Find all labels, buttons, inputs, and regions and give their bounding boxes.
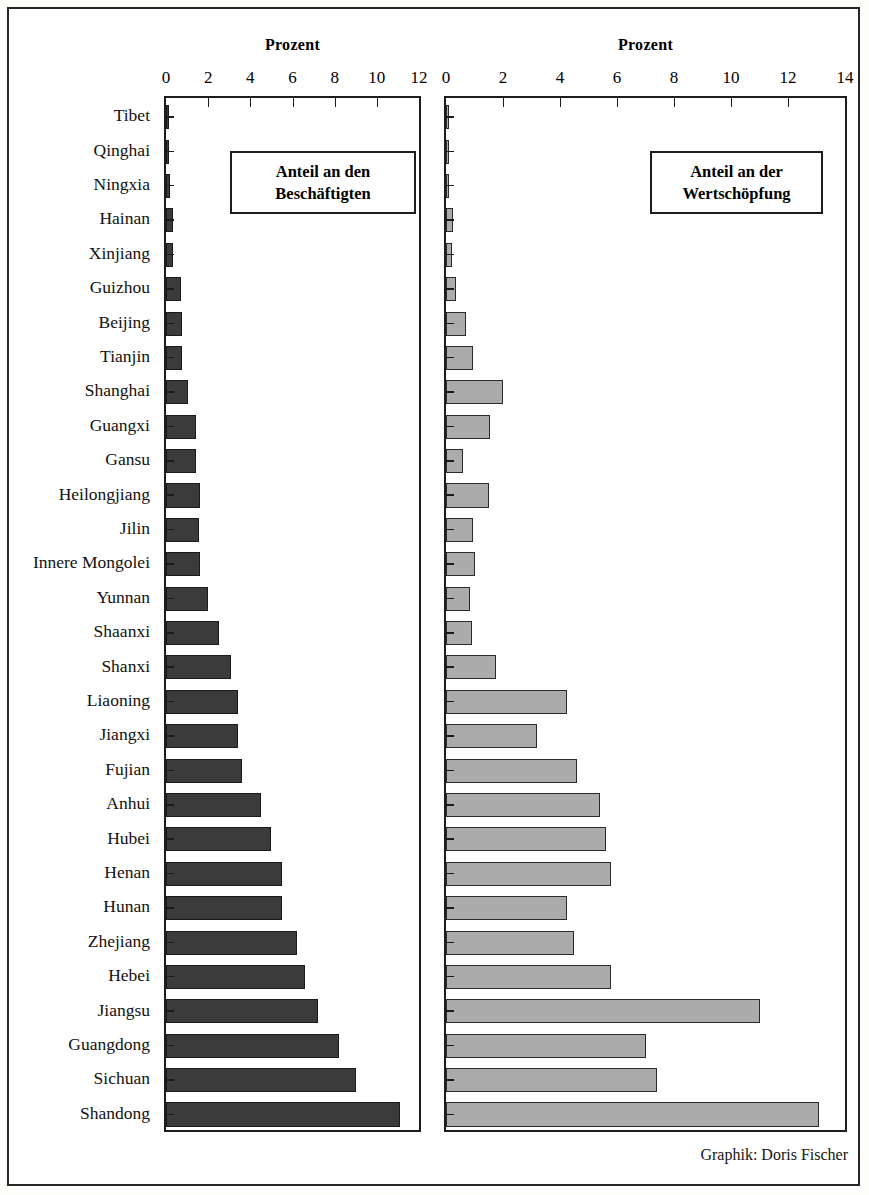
category-label-jilin: Jilin xyxy=(120,518,150,539)
bar-row xyxy=(166,650,419,684)
bar-jiangsu[interactable] xyxy=(166,999,318,1023)
xaxis-ticklabels-right: 02468101214 xyxy=(446,68,845,90)
bar-zhejiang[interactable] xyxy=(446,931,574,955)
category-tickmark xyxy=(446,873,454,875)
bar-row xyxy=(446,753,845,787)
xaxis-tickmark-12 xyxy=(788,98,789,107)
bar-henan[interactable] xyxy=(166,862,282,886)
category-tickmark xyxy=(446,151,454,153)
category-tickmark xyxy=(166,185,174,187)
bar-fujian[interactable] xyxy=(166,759,242,783)
category-tickmark xyxy=(166,1114,174,1116)
bar-row xyxy=(166,1063,419,1097)
category-tickmark xyxy=(166,563,174,565)
bar-row xyxy=(446,822,845,856)
bar-shandong[interactable] xyxy=(166,1102,400,1126)
bar-anhui[interactable] xyxy=(166,793,261,817)
bar-row xyxy=(446,1097,845,1131)
category-tickmark xyxy=(446,770,454,772)
category-tickmark xyxy=(446,288,454,290)
bar-sichuan[interactable] xyxy=(166,1068,356,1092)
bar-liaoning[interactable] xyxy=(166,690,238,714)
bar-row xyxy=(446,994,845,1028)
category-tickmark xyxy=(166,770,174,772)
category-label-hainan: Hainan xyxy=(99,208,150,229)
bar-henan[interactable] xyxy=(446,862,611,886)
axis-title-right: Prozent xyxy=(446,36,845,54)
category-tickmark xyxy=(166,598,174,600)
bar-shanghai[interactable] xyxy=(446,380,503,404)
bar-hebei[interactable] xyxy=(166,965,305,989)
bar-row xyxy=(166,444,419,478)
bar-row xyxy=(166,994,419,1028)
category-tickmark xyxy=(446,391,454,393)
category-tickmark xyxy=(446,735,454,737)
category-tickmark xyxy=(166,460,174,462)
category-tickmark xyxy=(166,666,174,668)
bar-row xyxy=(166,1097,419,1131)
bar-sichuan[interactable] xyxy=(446,1068,657,1092)
bar-row xyxy=(446,410,845,444)
bar-liaoning[interactable] xyxy=(446,690,567,714)
category-label-gansu: Gansu xyxy=(105,449,150,470)
category-tickmark xyxy=(446,254,454,256)
bar-zhejiang[interactable] xyxy=(166,931,297,955)
category-tickmark xyxy=(446,494,454,496)
category-tickmark xyxy=(166,254,174,256)
bar-shandong[interactable] xyxy=(446,1102,819,1126)
bar-jiangxi[interactable] xyxy=(166,724,238,748)
bar-row xyxy=(166,306,419,340)
xaxis-tick-4: 4 xyxy=(556,68,565,88)
category-tickmark xyxy=(166,1010,174,1012)
xaxis-tickmark-4 xyxy=(560,98,561,107)
bar-row xyxy=(166,616,419,650)
bar-row xyxy=(166,857,419,891)
bar-hunan[interactable] xyxy=(446,896,567,920)
category-label-guizhou: Guizhou xyxy=(90,277,150,298)
xaxis-tickmark-2 xyxy=(503,98,504,107)
bar-jiangsu[interactable] xyxy=(446,999,760,1023)
category-tickmark xyxy=(446,1045,454,1047)
xaxis-tickmark-8 xyxy=(335,98,336,107)
bar-fujian[interactable] xyxy=(446,759,577,783)
category-label-shanxi: Shanxi xyxy=(101,655,150,676)
category-tickmark xyxy=(166,976,174,978)
bar-guangdong[interactable] xyxy=(446,1034,646,1058)
category-label-guangxi: Guangxi xyxy=(90,414,150,435)
bar-jiangxi[interactable] xyxy=(446,724,537,748)
legend-beschaeftigte: Anteil an den Beschäftigten xyxy=(230,151,416,214)
bar-shanxi[interactable] xyxy=(166,655,231,679)
category-label-tibet: Tibet xyxy=(114,105,150,126)
category-label-sichuan: Sichuan xyxy=(94,1068,150,1089)
chart-page: Prozent Prozent 024681012 02468101214 Ti… xyxy=(0,0,869,1195)
bar-row xyxy=(166,753,419,787)
category-label-innere-mongolei: Innere Mongolei xyxy=(33,552,150,573)
category-tickmark xyxy=(166,838,174,840)
category-tickmark xyxy=(166,529,174,531)
bar-row xyxy=(166,272,419,306)
xaxis-tickmark-10 xyxy=(731,98,732,107)
bar-row xyxy=(166,547,419,581)
category-tickmark xyxy=(166,288,174,290)
category-label-shandong: Shandong xyxy=(80,1102,150,1123)
category-tickmark xyxy=(446,357,454,359)
legend-line-2: Beschäftigten xyxy=(275,183,370,204)
bar-guangdong[interactable] xyxy=(166,1034,339,1058)
bar-row xyxy=(446,960,845,994)
category-tickmark xyxy=(166,426,174,428)
bar-row xyxy=(166,822,419,856)
category-tickmark xyxy=(166,632,174,634)
bar-hunan[interactable] xyxy=(166,896,282,920)
category-tickmark xyxy=(166,151,174,153)
bar-row xyxy=(446,375,845,409)
bar-hebei[interactable] xyxy=(446,965,611,989)
category-tickmark xyxy=(446,666,454,668)
bar-anhui[interactable] xyxy=(446,793,600,817)
category-tickmark xyxy=(446,460,454,462)
category-label-fujian: Fujian xyxy=(105,758,150,779)
category-tickmark xyxy=(446,1114,454,1116)
bar-hubei[interactable] xyxy=(166,827,271,851)
bar-hubei[interactable] xyxy=(446,827,606,851)
bar-row xyxy=(166,719,419,753)
category-tickmark xyxy=(166,323,174,325)
